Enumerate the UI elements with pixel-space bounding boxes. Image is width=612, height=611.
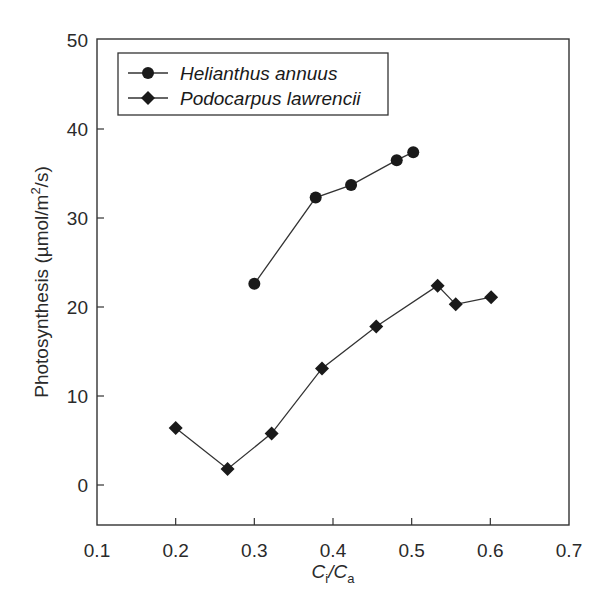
y-tick-label: 20 [67,297,88,318]
data-point-circle [391,154,403,166]
y-tick-label: 0 [77,475,88,496]
y-tick-label: 10 [67,386,88,407]
data-point-diamond [169,421,183,435]
legend-label-helianthus: Helianthus annuus [180,63,338,84]
data-point-diamond [369,320,383,334]
y-tick-label: 50 [67,30,88,51]
data-point-circle [310,192,322,204]
legend-circle-marker-icon [142,67,154,79]
y-axis-title: Photosynthesis (µmol/m2/s) [28,166,52,397]
x-title-c2: /C [326,561,347,582]
series-line-1 [176,286,491,469]
data-point-circle [407,146,419,158]
x-axis-title: Ci/Ca [312,561,356,586]
legend-label-podocarpus: Podocarpus lawrencii [180,88,361,109]
data-point-diamond [484,290,498,304]
x-tick-label: 0.6 [477,540,503,561]
data-point-circle [345,179,357,191]
series-layer [169,146,498,476]
x-tick-label: 0.2 [162,540,188,561]
y-title-main: Photosynthesis (µmol/m [31,195,52,398]
y-tick-label: 40 [67,119,88,140]
data-point-diamond [221,462,235,476]
x-title-c1: C [312,561,326,582]
y-title-end: /s) [31,166,52,187]
x-tick-label: 0.5 [398,540,424,561]
y-title-sup: 2 [28,187,43,194]
x-tick-label: 0.4 [320,540,347,561]
series-line-0 [254,152,413,284]
data-point-circle [248,278,260,290]
chart: 0.10.20.30.40.50.60.701020304050 Heliant… [0,0,612,611]
y-tick-label: 30 [67,208,88,229]
data-point-diamond [265,426,279,440]
legend: Helianthus annuus Podocarpus lawrencii [118,53,388,115]
data-point-diamond [315,361,329,375]
x-title-sub-a: a [347,571,355,586]
x-tick-label: 0.7 [556,540,582,561]
x-tick-label: 0.3 [241,540,267,561]
x-tick-label: 0.1 [84,540,110,561]
